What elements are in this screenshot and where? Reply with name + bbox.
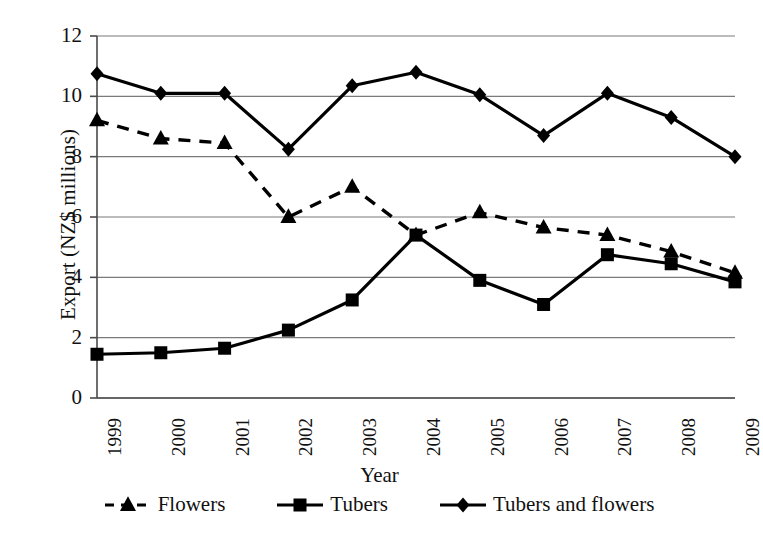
series-line-2: [97, 72, 735, 156]
legend-key-triangle-icon: [105, 495, 151, 515]
data-point-2-9: [665, 110, 678, 125]
data-point-0-1: [153, 130, 169, 145]
series-line-0: [97, 120, 735, 272]
data-point-2-10: [729, 149, 742, 164]
data-point-1-1: [154, 346, 167, 359]
legend-label: Flowers: [158, 494, 226, 515]
data-point-1-10: [729, 275, 742, 288]
legend-item: Tubers: [277, 494, 388, 515]
legend-marker: [456, 497, 469, 512]
series-lines: [97, 72, 735, 354]
legend-label: Tubers: [330, 494, 388, 515]
legend-item: Tubers and flowers: [440, 494, 654, 515]
x-tick-label: 2004: [424, 418, 443, 456]
data-point-2-7: [537, 128, 550, 143]
data-point-1-5: [410, 229, 423, 242]
data-point-0-0: [89, 112, 105, 127]
data-point-1-8: [601, 248, 614, 261]
x-tick-label: 2001: [233, 418, 252, 456]
data-point-2-0: [91, 66, 104, 81]
data-point-2-5: [410, 65, 423, 80]
data-point-1-6: [473, 274, 486, 287]
data-point-1-0: [91, 348, 104, 361]
data-point-1-2: [218, 342, 231, 355]
data-point-0-6: [472, 204, 488, 219]
x-tick-label: 2003: [360, 418, 379, 456]
series-line-1: [97, 235, 735, 354]
x-tick-label: 2005: [488, 418, 507, 456]
x-tick-label: 2006: [552, 418, 571, 456]
data-point-1-9: [665, 257, 678, 270]
legend-key-square-icon: [277, 495, 323, 515]
legend-key-diamond-icon: [440, 495, 486, 515]
legend-marker: [294, 498, 307, 511]
data-point-2-1: [154, 86, 167, 101]
data-point-1-7: [537, 298, 550, 311]
chart-legend: FlowersTubersTubers and flowers: [0, 494, 759, 515]
x-tick-label: 1999: [105, 418, 124, 456]
data-point-0-2: [217, 134, 233, 149]
x-axis-title: Year: [0, 463, 759, 488]
x-tick-label: 2002: [296, 418, 315, 456]
data-point-0-4: [344, 178, 360, 193]
x-tick-label: 2009: [743, 418, 762, 456]
data-point-1-3: [282, 324, 295, 337]
x-tick-label: 2000: [169, 418, 188, 456]
data-point-1-4: [346, 293, 359, 306]
legend-label: Tubers and flowers: [493, 494, 654, 515]
x-tick-label: 2007: [615, 418, 634, 456]
data-point-2-8: [601, 86, 614, 101]
x-tick-label: 2008: [679, 418, 698, 456]
data-point-2-6: [473, 87, 486, 102]
legend-item: Flowers: [105, 494, 226, 515]
